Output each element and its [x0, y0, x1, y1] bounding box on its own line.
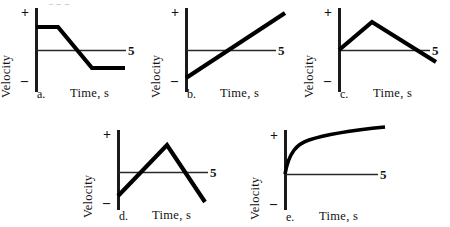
negative-sign-a: – — [21, 74, 28, 88]
positive-sign-a: + — [21, 6, 29, 20]
panel-letter-e: e. — [286, 211, 294, 223]
y-axis-label-e: Velocity — [248, 177, 263, 220]
y-axis-label-b: Velocity — [149, 55, 164, 98]
positive-sign-e: + — [270, 129, 278, 143]
x-axis-label-a: Time, s — [70, 87, 109, 100]
panel-a: Velocity + – 5 a. Time, s — [0, 0, 150, 112]
velocity-curve-d — [118, 145, 205, 202]
negative-sign-c: – — [324, 74, 331, 88]
x-tick-label-a: 5 — [128, 44, 135, 57]
panel-letter-c: c. — [340, 88, 348, 100]
x-tick-label-b: 5 — [278, 44, 285, 57]
y-axis-label-a: Velocity — [0, 55, 14, 98]
panel-letter-d: d. — [119, 210, 128, 222]
panel-e: Velocity + – 5 e. Time, s — [215, 112, 395, 227]
velocity-curve-a — [36, 27, 125, 68]
panel-letter-b: b. — [187, 88, 196, 100]
positive-sign-b: + — [171, 6, 179, 20]
x-axis-label-c: Time, s — [373, 87, 412, 100]
velocity-curve-b — [186, 13, 285, 78]
positive-sign-c: + — [324, 6, 332, 20]
positive-sign-d: + — [103, 128, 111, 142]
negative-sign-e: – — [270, 197, 277, 211]
y-axis-label-c: Velocity — [302, 55, 317, 98]
velocity-curve-c — [339, 22, 436, 62]
panel-d: Velocity + – 5 d. Time, s — [60, 112, 220, 227]
panel-e-plot — [215, 112, 395, 227]
panel-letter-a: a. — [37, 88, 45, 100]
x-tick-label-c: 5 — [432, 44, 439, 57]
figure-sheet: g p p Velocity + – 5 a. Time, s Velocity… — [0, 0, 450, 227]
x-tick-label-e: 5 — [380, 168, 387, 181]
panel-c: Velocity + – 5 c. Time, s — [300, 0, 450, 112]
negative-sign-b: – — [171, 74, 178, 88]
x-axis-label-b: Time, s — [220, 87, 259, 100]
panel-b: Velocity + – 5 b. Time, s — [150, 0, 300, 112]
negative-sign-d: – — [103, 196, 110, 210]
y-axis-label-d: Velocity — [81, 175, 96, 218]
x-axis-label-d: Time, s — [152, 209, 191, 222]
x-axis-label-e: Time, s — [319, 210, 358, 223]
velocity-curve-e — [285, 127, 385, 174]
